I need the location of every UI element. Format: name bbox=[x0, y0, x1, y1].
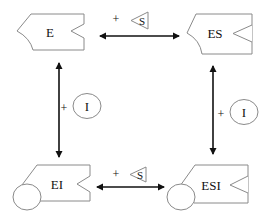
ligand-label: S bbox=[139, 15, 145, 27]
plus-sign: + bbox=[113, 12, 120, 26]
plus-sign: + bbox=[113, 167, 120, 181]
node-ei-label: EI bbox=[51, 177, 63, 192]
plus-sign: + bbox=[218, 107, 225, 121]
ligand-label: I bbox=[85, 99, 89, 114]
ligand-label: I bbox=[242, 105, 246, 120]
node-ei: EI bbox=[13, 165, 90, 210]
node-esi-label: ESI bbox=[201, 178, 221, 193]
plus-sign: + bbox=[61, 101, 68, 115]
diagram-canvas: E ES EI ESI + S + S + I bbox=[0, 0, 273, 221]
ligand-label: S bbox=[137, 169, 143, 181]
node-es: ES bbox=[187, 14, 252, 54]
node-e: E bbox=[17, 14, 84, 50]
node-esi: ESI bbox=[167, 165, 248, 210]
edge-e-es: + S bbox=[100, 12, 179, 36]
node-es-label: ES bbox=[207, 26, 222, 41]
edge-ei-esi: + S bbox=[97, 167, 164, 187]
edge-e-ei: + I bbox=[59, 63, 101, 157]
edge-es-esi: + I bbox=[213, 66, 258, 154]
node-e-label: E bbox=[46, 25, 54, 40]
bound-inhibitor-circle-icon bbox=[167, 184, 195, 210]
enzyme-binding-diagram: E ES EI ESI + S + S + I bbox=[0, 0, 273, 221]
bound-inhibitor-circle-icon bbox=[13, 184, 41, 210]
